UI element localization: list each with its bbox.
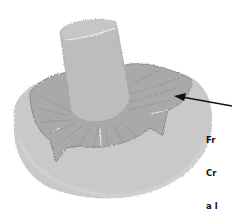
annotation-label: Fr Cr a l (206, 113, 218, 215)
mushroom-illustration (0, 0, 232, 215)
annotation-line-3: a l (206, 201, 218, 212)
mushroom-stem (60, 20, 130, 122)
annotation-line-1: Fr (206, 135, 218, 146)
annotation-line-2: Cr (206, 168, 218, 179)
